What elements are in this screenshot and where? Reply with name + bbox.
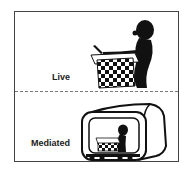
tv-showing-chess-player-icon — [78, 100, 168, 162]
person-playing-chess-icon — [85, 18, 165, 90]
live-label: Live — [52, 72, 70, 82]
mediated-label: Mediated — [31, 138, 70, 148]
dashed-divider — [15, 91, 178, 92]
